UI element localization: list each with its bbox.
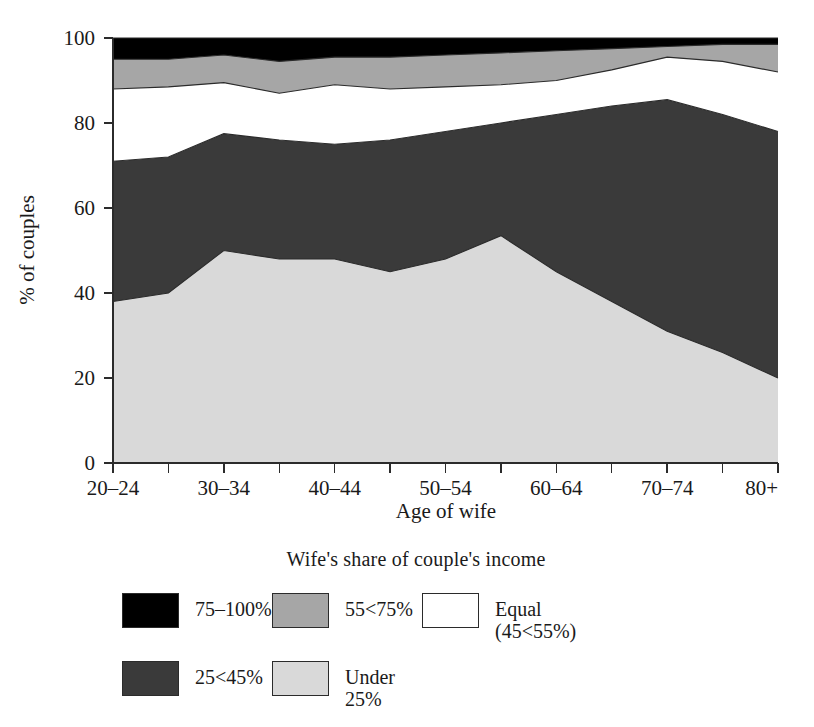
legend-swatch-equal [422,593,479,628]
x-tick-label: 30–34 [198,476,251,500]
y-tick-label: 60 [74,196,95,220]
y-axis-tick-labels: 020406080100 [64,26,96,475]
legend-label-75-100: 75–100% [195,593,272,620]
legend-spacer [422,661,622,711]
figure-container: 020406080100 20–2430–3440–4450–5460–6470… [0,0,814,727]
stacked-area-chart: 020406080100 20–2430–3440–4450–5460–6470… [0,0,814,530]
legend-swatch-55-75 [272,593,329,628]
legend-label-equal: Equal (45<55%) [495,593,576,643]
y-tick-label: 40 [74,281,95,305]
legend-item-equal[interactable]: Equal (45<55%) [422,593,622,643]
y-axis-ticks [104,38,113,463]
legend-swatch-25-45 [122,661,179,696]
area-series-group [113,38,778,463]
legend-label-25-45: 25<45% [195,661,263,688]
x-axis-title: Age of wife [396,499,496,523]
y-axis-title: % of couples [15,195,39,305]
x-tick-label: 70–74 [641,476,694,500]
legend-title: Wife's share of couple's income [0,548,814,571]
x-axis-tick-labels: 20–2430–3440–4450–5460–6470–7480+ [87,476,778,500]
x-tick-label: 60–64 [530,476,583,500]
legend-label-under-25: Under 25% [345,661,422,711]
y-tick-label: 100 [64,26,96,50]
legend-item-55-75[interactable]: 55<75% [272,593,422,643]
legend-swatch-75-100 [122,593,179,628]
y-tick-label: 20 [74,366,95,390]
y-tick-label: 0 [85,451,96,475]
y-tick-label: 80 [74,111,95,135]
legend-item-75-100[interactable]: 75–100% [122,593,272,643]
x-tick-label: 50–54 [419,476,472,500]
legend-swatch-under-25 [272,661,329,696]
x-tick-label: 40–44 [308,476,361,500]
legend-item-25-45[interactable]: 25<45% [122,661,272,711]
x-tick-label: 20–24 [87,476,140,500]
x-axis-ticks [113,463,778,473]
x-tick-label: 80+ [745,476,778,500]
legend: Wife's share of couple's income 75–100% … [0,548,814,711]
legend-item-under-25[interactable]: Under 25% [272,661,422,711]
legend-entries: 75–100% 55<75% Equal (45<55%) 25<45% Und… [52,593,762,711]
legend-label-55-75: 55<75% [345,593,413,620]
